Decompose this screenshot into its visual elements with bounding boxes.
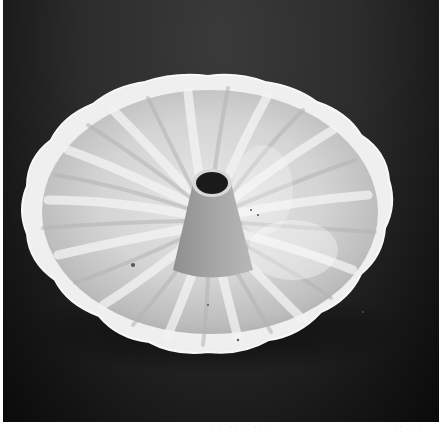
footer-fragment: · · ·· · ·· · <box>210 423 274 430</box>
footer-fragment: ·· · · <box>395 423 424 430</box>
footer-text-fragments: · · ·· · ·· · ·· · · <box>0 423 447 433</box>
bundt-pan-illustration <box>3 0 439 422</box>
tube-opening <box>196 172 228 194</box>
pan-highlight <box>233 145 293 235</box>
bundt-pan-photo <box>3 0 439 422</box>
